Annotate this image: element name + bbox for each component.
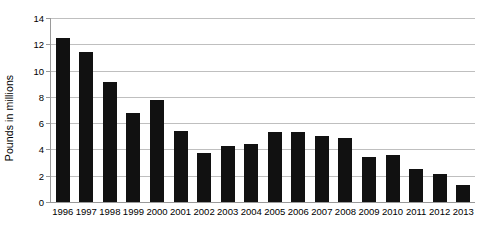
x-axis-baseline [51,202,475,203]
plot-area [51,18,475,202]
gridline [51,18,475,19]
y-axis-tick-label: 4 [0,145,44,155]
y-axis-tick-mark [46,18,51,19]
y-axis-tick-labels: 02468101214 [0,18,44,202]
bar [362,157,376,202]
bar [56,38,70,202]
x-axis-tick-label: 2013 [448,205,478,219]
bar [197,153,211,202]
y-axis-tick-mark [46,44,51,45]
bar [103,82,117,202]
y-axis-tick-mark [46,176,51,177]
y-axis-tick-mark [46,123,51,124]
bar [268,132,282,202]
y-axis-tick-label: 0 [0,198,44,208]
y-axis-tick-mark [46,149,51,150]
bar-chart: Pounds in millions 02468101214 199619971… [0,0,485,236]
bar [79,52,93,202]
gridline [51,44,475,45]
y-axis-tick-label: 12 [0,40,44,50]
bar [244,144,258,202]
bar [174,131,188,202]
bar [315,136,329,202]
y-axis-tick-label: 14 [0,14,44,24]
bar [456,185,470,202]
gridline [51,71,475,72]
bar [126,113,140,202]
bar [291,132,305,202]
bar [338,138,352,202]
y-axis-tick-label: 10 [0,67,44,77]
bar [386,155,400,202]
bar [221,146,235,202]
y-axis-tick-mark [46,202,51,203]
y-axis-tick-mark [46,97,51,98]
bar [409,169,423,202]
y-axis-tick-mark [46,71,51,72]
bar [150,100,164,203]
bar [433,174,447,202]
y-axis-tick-label: 6 [0,119,44,129]
y-axis-tick-label: 8 [0,93,44,103]
x-axis-tick-labels: 1996199719981999200020012002200320042005… [51,205,475,221]
y-axis-tick-label: 2 [0,172,44,182]
